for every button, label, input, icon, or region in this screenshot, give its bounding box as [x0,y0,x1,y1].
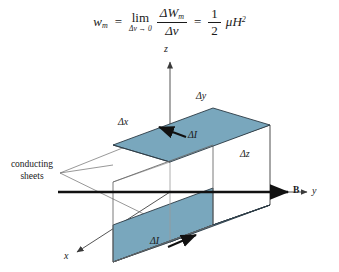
delta-x-label: Δx [118,116,128,128]
cube-diagram: z y x B Δy Δx Δz ΔI ΔI conducting sheets [0,40,339,272]
limit-operator: lim Δv → 0 [129,11,152,33]
bottom-conducting-sheet [113,188,213,262]
equals-sign-2: = [192,14,203,30]
delta-I-top-label: ΔI [188,129,197,141]
x-axis-label: x [64,250,68,262]
one-half-fraction: 1 2 [208,7,221,37]
lim-condition: Δv → 0 [129,25,152,33]
one-half-numerator: 1 [208,7,221,22]
diagram-svg [0,40,339,272]
delta-y-label: Δy [196,90,206,102]
equals-sign-1: = [113,14,124,30]
equation-lhs: wm [93,14,107,30]
z-axis-label: z [164,43,168,55]
y-axis-label: y [312,185,316,197]
lim-word: lim [132,11,149,24]
fraction-numerator: ΔWm [157,6,187,22]
fraction-denominator: Δv [162,23,181,38]
equation-row: wm = lim Δv → 0 ΔWm Δv = 1 2 μH2 [93,6,246,38]
one-half-denominator: 2 [208,23,221,38]
figure-page: wm = lim Δv → 0 ΔWm Δv = 1 2 μH2 [0,0,339,272]
callout-line-1: conducting [11,159,53,169]
permeability-term: μH2 [226,14,246,30]
equation-block: wm = lim Δv → 0 ΔWm Δv = 1 2 μH2 [0,6,339,38]
magnetic-field-label: B [293,185,299,196]
callout-line-2: sheets [20,171,43,181]
conducting-sheets-callout: conducting sheets [4,159,60,183]
derivative-fraction: ΔWm Δv [157,6,187,38]
delta-I-bottom-label: ΔI [150,235,159,247]
delta-z-label: Δz [240,148,250,160]
